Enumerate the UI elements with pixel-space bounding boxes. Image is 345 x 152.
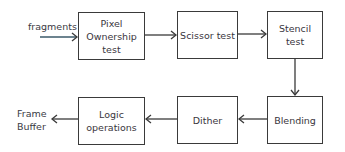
stage-scissor-test: Scissor test [177,11,238,59]
stage-label: Pixel [86,17,137,30]
stage-label: Stencil [279,22,311,35]
stage-label: Dither [193,114,222,127]
stage-pixel-ownership-test: Pixel Ownership test [78,12,145,60]
stage-label: Scissor test [180,29,235,42]
stage-label: Blending [274,114,316,127]
output-label-line1: Frame [17,107,47,120]
stage-label: Logic [86,108,137,121]
stage-label: test [279,35,311,48]
stage-label: test [86,43,137,56]
stage-dither: Dither [177,96,238,144]
stage-blending: Blending [267,96,323,144]
output-label-frame-buffer: Frame Buffer [17,107,47,133]
output-label-line2: Buffer [17,120,47,133]
stage-logic-operations: Logic operations [78,97,145,145]
stage-stencil-test: Stencil test [267,11,323,59]
input-label-fragments: fragments [28,20,77,33]
stage-label: operations [86,121,137,134]
stage-label: Ownership [86,30,137,43]
